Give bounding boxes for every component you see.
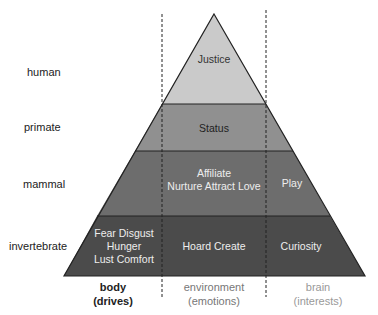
cell-justice: Justice — [174, 53, 254, 66]
cell-status: Status — [174, 122, 254, 135]
row-label-invertebrate: invertebrate — [9, 240, 67, 252]
row-label-human: human — [27, 66, 61, 78]
cell-curiosity: Curiosity — [266, 240, 336, 253]
pyramid-diagram — [0, 0, 378, 315]
row-label-mammal: mammal — [23, 178, 65, 190]
cell-fear: Fear Disgust Hunger Lust Comfort — [86, 227, 162, 266]
row-label-primate: primate — [24, 121, 61, 133]
cell-hoard: Hoard Create — [162, 240, 266, 253]
cell-play: Play — [272, 177, 312, 190]
col-body: body(drives) — [63, 280, 163, 308]
col-environment: environment(emotions) — [164, 280, 264, 308]
cell-affiliate: Affiliate Nurture Attract Love — [162, 167, 266, 193]
col-brain: brain(interests) — [268, 280, 368, 308]
